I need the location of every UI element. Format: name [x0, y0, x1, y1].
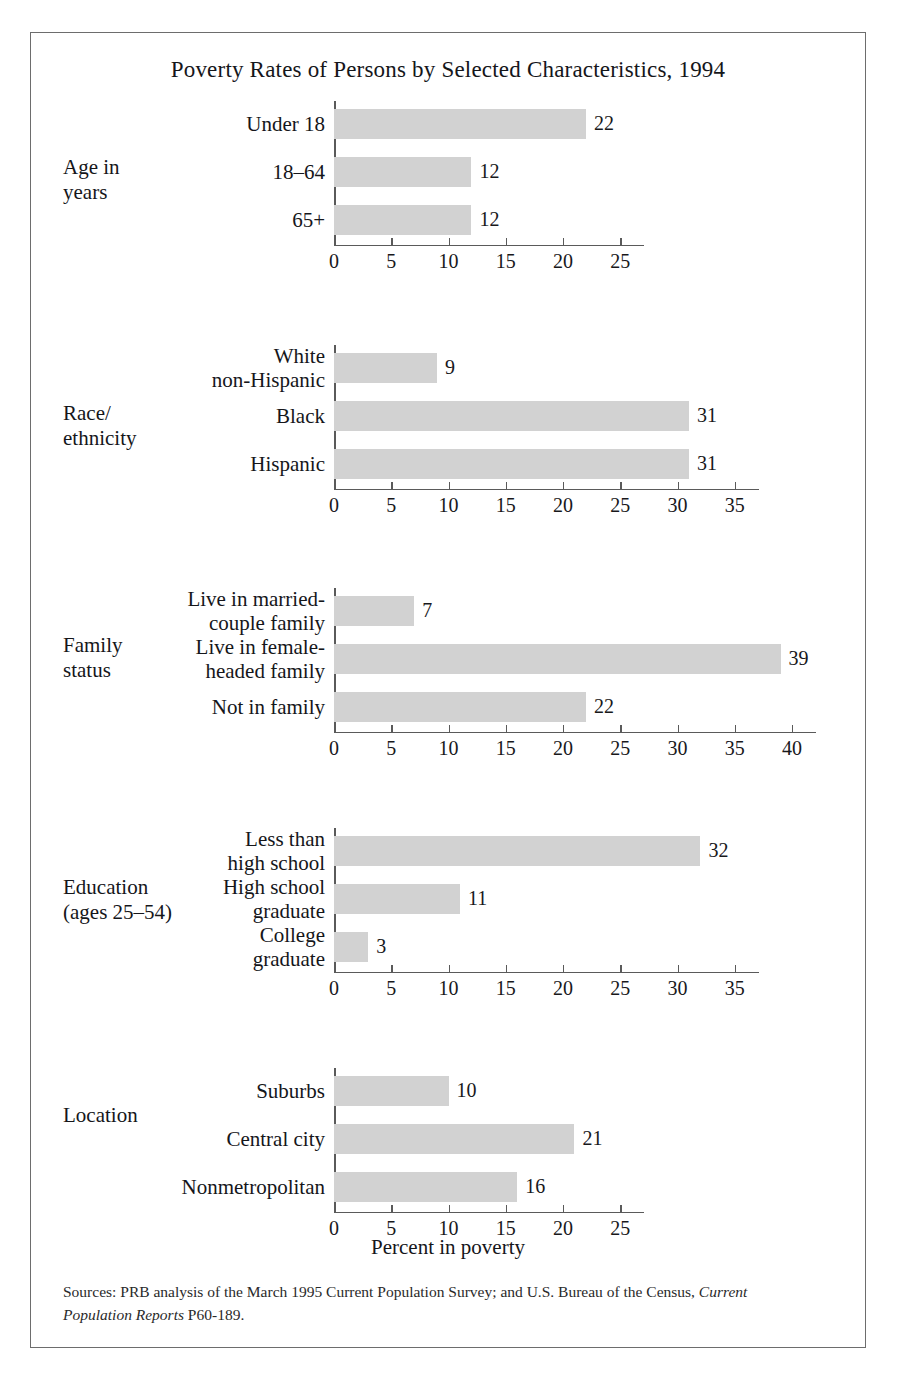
bar [334, 932, 368, 962]
x-axis-tick-label: 5 [386, 494, 396, 517]
bar-value-label: 12 [479, 208, 499, 231]
bar [334, 1124, 574, 1154]
bar-category-label: 65+ [65, 208, 325, 232]
x-axis-tick-label: 35 [725, 494, 745, 517]
x-axis-tick-label: 25 [610, 737, 630, 760]
bar-value-label: 31 [697, 404, 717, 427]
x-axis-tick [506, 238, 507, 245]
bar [334, 109, 586, 139]
bar-value-label: 10 [457, 1079, 477, 1102]
bar-category-label: Live in female- headed family [65, 635, 325, 684]
bar-category-label: Under 18 [65, 112, 325, 136]
x-axis-tick-label: 20 [553, 977, 573, 1000]
x-axis-tick [506, 725, 507, 732]
bar-row: Less than high school32 [334, 836, 775, 866]
bar-value-label: 22 [594, 112, 614, 135]
bar [334, 1172, 517, 1202]
x-axis-tick [506, 1205, 507, 1212]
x-axis-tick [735, 725, 736, 732]
bar-category-label: Not in family [65, 695, 325, 719]
panel-plot-area: 0510152025303540Live in married- couple … [334, 588, 832, 732]
x-axis-line [334, 245, 644, 246]
bar-category-label: Suburbs [65, 1079, 325, 1103]
x-axis-tick [735, 482, 736, 489]
bar-row: College graduate3 [334, 932, 775, 962]
x-axis-tick [563, 238, 564, 245]
x-axis-tick-label: 0 [329, 737, 339, 760]
bar-value-label: 22 [594, 695, 614, 718]
bar-row: Hispanic31 [334, 449, 775, 479]
x-axis-tick [620, 725, 621, 732]
bar-value-label: 11 [468, 887, 487, 910]
bar-category-label: Central city [65, 1127, 325, 1151]
bar-row: Live in married- couple family7 [334, 596, 832, 626]
x-axis-tick-label: 30 [668, 977, 688, 1000]
x-axis-tick-label: 30 [668, 494, 688, 517]
x-axis-tick-label: 20 [553, 250, 573, 273]
bar-category-label: Less than high school [65, 827, 325, 876]
x-axis-tick-label: 25 [610, 977, 630, 1000]
panel-group-label: Location [63, 1103, 243, 1128]
bar [334, 692, 586, 722]
x-axis-line [334, 732, 816, 733]
x-axis-tick-label: 5 [386, 977, 396, 1000]
x-axis-tick [449, 725, 450, 732]
source-text-prefix: Sources: PRB analysis of the March 1995 … [63, 1283, 699, 1300]
bar-category-label: High school graduate [65, 875, 325, 924]
x-axis-caption: Percent in poverty [31, 1235, 865, 1260]
x-axis-tick [792, 725, 793, 732]
x-axis-tick [391, 1205, 392, 1212]
bar-value-label: 7 [422, 599, 432, 622]
bar [334, 836, 700, 866]
bar-value-label: 9 [445, 356, 455, 379]
bar-category-label: Live in married- couple family [65, 587, 325, 636]
figure-frame: Poverty Rates of Persons by Selected Cha… [30, 32, 866, 1348]
panel-plot-area: 05101520253035Less than high school32Hig… [334, 828, 775, 972]
bar [334, 596, 414, 626]
x-axis-tick-label: 10 [439, 737, 459, 760]
x-axis-tick [391, 965, 392, 972]
bar-row: Live in female- headed family39 [334, 644, 832, 674]
chart-panel: Race/ ethnicity05101520253035White non-H… [31, 345, 867, 523]
x-axis-tick [449, 965, 450, 972]
x-axis-tick [678, 725, 679, 732]
x-axis-tick [563, 482, 564, 489]
x-axis-tick [506, 965, 507, 972]
bar-value-label: 32 [708, 839, 728, 862]
x-axis-tick-label: 0 [329, 494, 339, 517]
bar-row: White non-Hispanic9 [334, 353, 775, 383]
bar [334, 644, 781, 674]
bar-category-label: 18–64 [65, 160, 325, 184]
x-axis-tick [449, 482, 450, 489]
x-axis-line [334, 1212, 644, 1213]
bar [334, 353, 437, 383]
bar-row: Suburbs10 [334, 1076, 660, 1106]
bar [334, 157, 471, 187]
bar-row: 65+12 [334, 205, 660, 235]
bar-category-label: College graduate [65, 923, 325, 972]
x-axis-tick-label: 5 [386, 737, 396, 760]
bar-row: Nonmetropolitan16 [334, 1172, 660, 1202]
x-axis-tick-label: 15 [496, 737, 516, 760]
source-note: Sources: PRB analysis of the March 1995 … [63, 1281, 763, 1327]
x-axis-tick [678, 482, 679, 489]
x-axis-tick [620, 482, 621, 489]
x-axis-tick [678, 965, 679, 972]
panel-plot-area: 0510152025Suburbs10Central city21Nonmetr… [334, 1068, 660, 1212]
bar-row: Not in family22 [334, 692, 832, 722]
x-axis-tick [620, 238, 621, 245]
bar-category-label: White non-Hispanic [65, 344, 325, 393]
x-axis-tick-label: 10 [439, 250, 459, 273]
x-axis-tick-label: 35 [725, 737, 745, 760]
bar-value-label: 31 [697, 452, 717, 475]
x-axis-tick [391, 482, 392, 489]
bar-value-label: 39 [789, 647, 809, 670]
x-axis-tick-label: 15 [496, 250, 516, 273]
bar-value-label: 3 [376, 935, 386, 958]
x-axis-tick [506, 482, 507, 489]
bar-row: High school graduate11 [334, 884, 775, 914]
x-axis-tick [620, 1205, 621, 1212]
bar-value-label: 16 [525, 1175, 545, 1198]
x-axis-tick-label: 10 [439, 977, 459, 1000]
bar-value-label: 12 [479, 160, 499, 183]
